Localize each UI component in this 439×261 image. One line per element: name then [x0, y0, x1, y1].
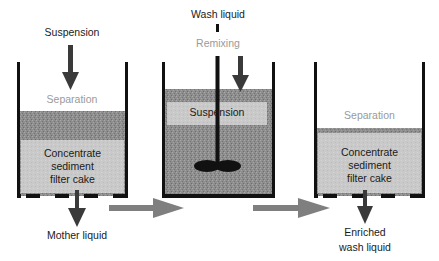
wash-liquid-inlet-mark-icon — [216, 24, 219, 32]
stage-3-output-label: Enriched wash liquid — [310, 225, 420, 255]
vessel-wall-left — [17, 62, 20, 198]
content-line: filter cake — [318, 172, 421, 185]
stage-3-content-label: Concentrate sediment filter cake — [318, 146, 421, 185]
vessel-wall-left — [162, 62, 165, 198]
vessel-wall-left — [314, 62, 317, 198]
transition-arrow-1-icon — [109, 198, 184, 218]
content-line: sediment — [21, 160, 124, 173]
stage-1-content-label: Concentrate sediment filter cake — [21, 147, 124, 186]
transition-arrow-2-icon — [253, 198, 330, 218]
stage-1-output-label: Mother liquid — [17, 229, 137, 241]
suspension-inlet-arrow-icon — [62, 45, 79, 90]
content-line: sediment — [318, 159, 421, 172]
output-line: Enriched — [310, 225, 420, 240]
stage-1-input-label: Suspension — [17, 26, 127, 38]
stage-3-process-label: Separation — [314, 109, 425, 121]
content-line: Concentrate — [21, 147, 124, 160]
stage-2-content-label: Suspension — [167, 106, 267, 118]
stage-2-input-label: Wash liquid — [163, 8, 273, 20]
wash-liquid-inlet-arrow-icon — [232, 56, 249, 92]
vessel-bottom — [162, 194, 275, 198]
vessel-wall-right — [422, 62, 425, 198]
stage-1-process-label: Separation — [17, 93, 127, 105]
content-line: Concentrate — [318, 146, 421, 159]
content-line: filter cake — [21, 173, 124, 186]
stage-2-process-label: Remixing — [163, 37, 273, 49]
vessel-wall-right — [272, 62, 275, 198]
output-line: wash liquid — [310, 240, 420, 255]
vessel-wall-right — [125, 62, 128, 198]
